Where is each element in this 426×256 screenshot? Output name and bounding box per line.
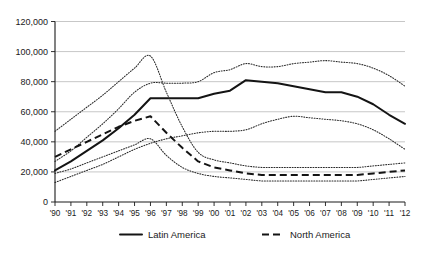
series-line xyxy=(55,61,405,162)
x-tick-label: '01 xyxy=(225,209,236,218)
x-tick-label: '04 xyxy=(272,209,283,218)
x-tick-label: '92 xyxy=(81,209,92,218)
x-tick-label: '95 xyxy=(129,209,140,218)
y-tick-label: 40,000 xyxy=(20,137,48,147)
x-tick-label: '96 xyxy=(145,209,156,218)
x-tick-label: '97 xyxy=(161,209,172,218)
y-tick-label: 0 xyxy=(43,197,48,207)
x-tick-label: '12 xyxy=(400,209,411,218)
chart-canvas: 020,00040,00060,00080,000100,000120,000 … xyxy=(0,0,426,256)
x-tick-label: '11 xyxy=(384,209,395,218)
line-chart: 020,00040,00060,00080,000100,000120,000 … xyxy=(0,0,426,256)
x-tick-label: '03 xyxy=(256,209,267,218)
x-tick-label: '09 xyxy=(352,209,363,218)
x-tick-label: '93 xyxy=(97,209,108,218)
y-axis-ticks xyxy=(51,22,55,203)
y-axis-labels: 020,00040,00060,00080,000100,000120,000 xyxy=(15,17,48,208)
data-series xyxy=(55,55,405,182)
x-tick-label: '98 xyxy=(177,209,188,218)
x-tick-label: '10 xyxy=(368,209,379,218)
x-tick-label: '06 xyxy=(304,209,315,218)
y-tick-label: 20,000 xyxy=(20,167,48,177)
x-tick-label: '05 xyxy=(288,209,299,218)
gridlines xyxy=(55,22,405,172)
legend-label: North America xyxy=(290,229,351,240)
series-line xyxy=(55,116,405,182)
x-tick-label: '00 xyxy=(209,209,220,218)
x-tick-label: '02 xyxy=(241,209,252,218)
x-tick-label: '91 xyxy=(66,209,77,218)
y-tick-label: 60,000 xyxy=(20,107,48,117)
x-axis-ticks xyxy=(55,202,405,206)
x-axis-labels: '90'91'92'93'94'95'96'97'98'99'00'01'02'… xyxy=(50,209,411,218)
x-tick-label: '94 xyxy=(113,209,124,218)
y-tick-label: 120,000 xyxy=(15,17,48,27)
y-tick-label: 100,000 xyxy=(15,47,48,57)
x-tick-label: '07 xyxy=(320,209,331,218)
x-tick-label: '99 xyxy=(193,209,204,218)
chart-legend: Latin AmericaNorth America xyxy=(120,229,351,240)
x-tick-label: '90 xyxy=(50,209,61,218)
legend-label: Latin America xyxy=(148,229,206,240)
series-line xyxy=(55,80,405,170)
y-tick-label: 80,000 xyxy=(20,77,48,87)
series-line xyxy=(55,116,405,175)
x-tick-label: '08 xyxy=(336,209,347,218)
